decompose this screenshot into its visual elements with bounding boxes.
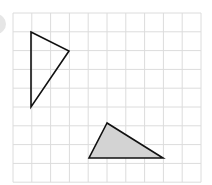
grid-diagram xyxy=(0,0,212,185)
decorative-circle xyxy=(0,14,6,34)
